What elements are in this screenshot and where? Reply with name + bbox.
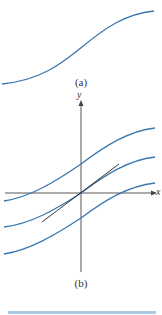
- curve-through-origin: [4, 157, 155, 227]
- x-axis-label: x: [156, 186, 160, 197]
- panel-b-caption: (b): [75, 277, 88, 289]
- y-axis-arrowhead-icon: [79, 100, 84, 106]
- bottom-divider-bar: [8, 311, 156, 314]
- figure-canvas: [0, 0, 162, 315]
- panel-a-curve: [2, 11, 154, 84]
- upper-shifted-curve: [4, 128, 155, 201]
- panel-a-caption: (a): [75, 76, 87, 88]
- y-axis-label: y: [77, 89, 81, 100]
